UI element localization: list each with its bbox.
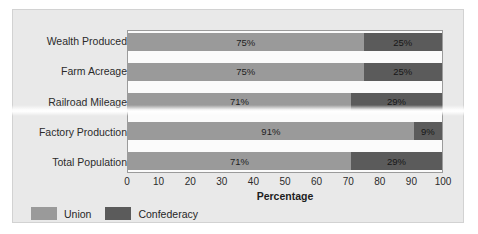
x-tick-label: 50 bbox=[279, 176, 290, 187]
category-axis-labels: Wealth ProducedFarm AcreageRailroad Mile… bbox=[21, 32, 127, 171]
x-axis-ticks: 0102030405060708090100 bbox=[127, 176, 445, 190]
legend-item: Confederacy bbox=[105, 207, 198, 220]
category-label: Farm Acreage bbox=[21, 62, 127, 80]
legend-label: Union bbox=[64, 208, 91, 220]
bar-row: 71%29% bbox=[128, 93, 442, 111]
plot-area: 75%25%75%25%71%29%91%9%71%29% bbox=[127, 30, 443, 173]
bar-segment-union: 71% bbox=[128, 93, 351, 111]
category-label: Factory Production bbox=[21, 123, 127, 141]
bar-segment-union: 75% bbox=[128, 33, 364, 51]
bar-rows: 75%25%75%25%71%29%91%9%71%29% bbox=[128, 33, 442, 170]
bar-segment-confederacy: 29% bbox=[351, 152, 442, 170]
bar-segment-confederacy: 9% bbox=[414, 122, 442, 140]
x-tick-label: 100 bbox=[435, 176, 452, 187]
chart-figure: Wealth ProducedFarm AcreageRailroad Mile… bbox=[12, 9, 464, 223]
legend-item: Union bbox=[31, 207, 91, 220]
x-tick-label: 80 bbox=[374, 176, 385, 187]
category-label: Total Population bbox=[21, 153, 127, 171]
x-tick-label: 0 bbox=[124, 176, 130, 187]
x-tick-label: 30 bbox=[216, 176, 227, 187]
legend-swatch-union bbox=[31, 207, 57, 220]
bar-segment-confederacy: 25% bbox=[364, 63, 443, 81]
x-tick-label: 20 bbox=[185, 176, 196, 187]
bar-segment-confederacy: 25% bbox=[364, 33, 443, 51]
x-tick-label: 70 bbox=[343, 176, 354, 187]
bar-row: 75%25% bbox=[128, 63, 442, 81]
bar-segment-union: 91% bbox=[128, 122, 414, 140]
x-axis-title: Percentage bbox=[127, 190, 443, 202]
bar-segment-union: 75% bbox=[128, 63, 364, 81]
category-label: Wealth Produced bbox=[21, 32, 127, 50]
bar-row: 75%25% bbox=[128, 33, 442, 51]
chart-legend: UnionConfederacy bbox=[31, 207, 198, 220]
bar-segment-union: 71% bbox=[128, 152, 351, 170]
x-tick-label: 90 bbox=[406, 176, 417, 187]
legend-swatch-confederacy bbox=[105, 207, 131, 220]
legend-label: Confederacy bbox=[138, 208, 198, 220]
category-label: Railroad Mileage bbox=[21, 93, 127, 111]
bar-row: 91%9% bbox=[128, 122, 442, 140]
x-tick-label: 10 bbox=[153, 176, 164, 187]
bar-row: 71%29% bbox=[128, 152, 442, 170]
x-tick-label: 60 bbox=[311, 176, 322, 187]
x-tick-label: 40 bbox=[248, 176, 259, 187]
bar-segment-confederacy: 29% bbox=[351, 93, 442, 111]
